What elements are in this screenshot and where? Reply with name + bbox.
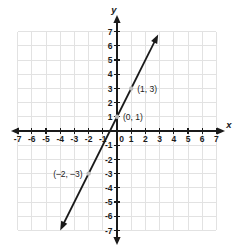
x-axis-label: x [225, 119, 232, 130]
x-tick-label: -2 [85, 134, 93, 144]
line-upper-arrow-icon [151, 34, 158, 44]
y-axis-label: y [110, 4, 117, 15]
y-tick-label: -3 [105, 169, 113, 179]
y-tick-label: -1 [105, 140, 113, 150]
y-tick-label: 7 [108, 27, 113, 37]
x-tick-label: -3 [71, 134, 79, 144]
y-tick-label: 4 [108, 69, 113, 79]
x-tick-label: 3 [157, 134, 162, 144]
point-marker [86, 171, 90, 175]
point-marker [115, 115, 119, 119]
y-axis-down-arrow-icon [113, 237, 120, 245]
x-tick-label: 0 [119, 134, 124, 144]
x-tick-label: 4 [171, 134, 176, 144]
point-marker [129, 86, 133, 90]
x-tick-label: 2 [143, 134, 148, 144]
x-tick-label: -7 [14, 134, 22, 144]
y-tick-label: 6 [108, 41, 113, 51]
y-tick-label: -7 [105, 226, 113, 236]
y-tick-label: 5 [108, 55, 113, 65]
graph-canvas: -7-6-5-4-3-2-101234567 7654321-1-2-3-4-5… [0, 0, 237, 246]
x-tick-label: -6 [28, 134, 36, 144]
coordinate-plane-graph: -7-6-5-4-3-2-101234567 7654321-1-2-3-4-5… [0, 0, 237, 246]
x-tick-label: 5 [186, 134, 191, 144]
point-label-neg2-neg3: (–2, –3) [53, 169, 82, 179]
x-tick-label: -4 [56, 134, 64, 144]
y-tick-label: -4 [105, 183, 113, 193]
x-tick-label: 7 [214, 134, 219, 144]
y-axis-up-arrow-icon [113, 15, 120, 23]
x-tick-label: 1 [129, 134, 134, 144]
x-tick-label: -5 [42, 134, 50, 144]
y-tick-label: -5 [105, 197, 113, 207]
y-tick-label: -6 [105, 211, 113, 221]
point-label-1-3: (1, 3) [137, 84, 157, 94]
y-tick-label: 1 [108, 112, 113, 122]
y-tick-label: -2 [105, 155, 113, 165]
y-tick-label: 3 [108, 84, 113, 94]
line-lower-arrow-icon [60, 221, 67, 231]
x-tick-label: 6 [200, 134, 205, 144]
y-tick-label: 2 [108, 98, 113, 108]
axes [11, 15, 225, 245]
point-label-0-1: (0, 1) [123, 112, 143, 122]
